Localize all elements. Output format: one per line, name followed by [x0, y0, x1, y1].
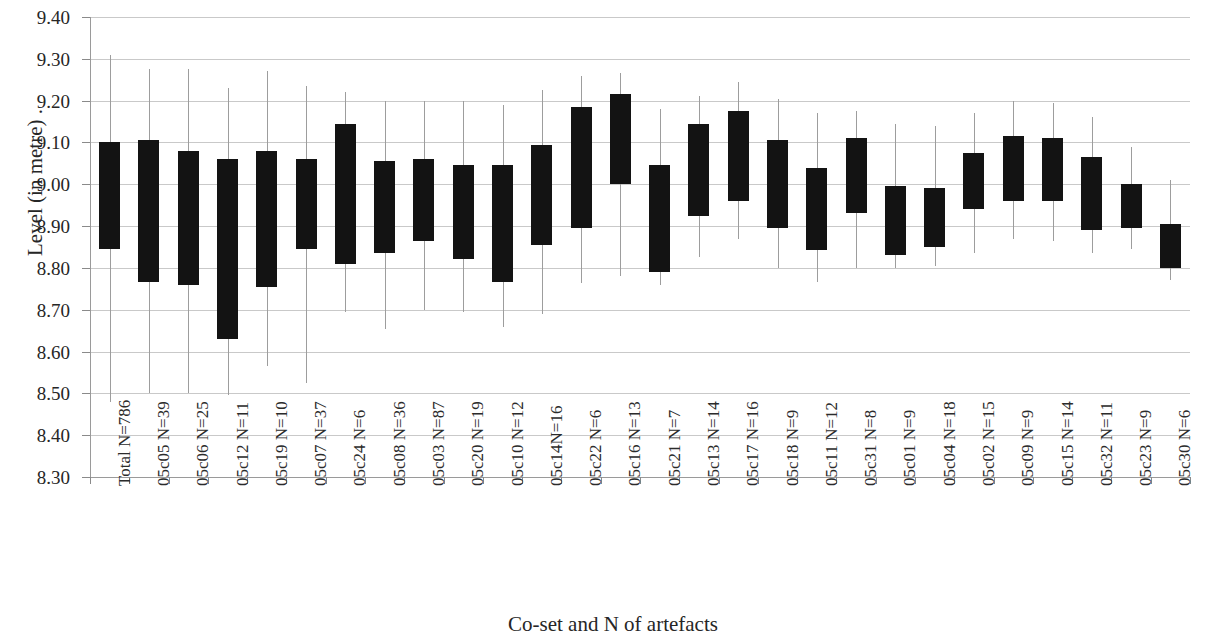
bar[interactable]	[335, 124, 356, 264]
bar[interactable]	[217, 159, 238, 339]
y-tick-label: 9.20	[12, 92, 70, 111]
x-tick-label: 05c31 N=8	[862, 410, 879, 486]
y-tick-mark	[82, 59, 90, 60]
bar[interactable]	[1042, 138, 1063, 201]
chart-canvas: Level (in metre) . 9.409.309.209.109.008…	[0, 0, 1226, 644]
bar[interactable]	[531, 145, 552, 245]
y-tick-label: 9.30	[12, 50, 70, 69]
y-tick-mark	[82, 435, 90, 436]
x-tick-label: 05c32 N=11	[1098, 402, 1115, 486]
y-tick-label: 8.90	[12, 217, 70, 236]
y-tick-mark	[82, 142, 90, 143]
y-tick-mark	[82, 352, 90, 353]
bar[interactable]	[767, 140, 788, 228]
y-tick-mark	[82, 184, 90, 185]
x-tick-label: 05c12 N=11	[234, 402, 251, 486]
bar[interactable]	[924, 188, 945, 247]
bar[interactable]	[963, 153, 984, 209]
gridline	[90, 268, 1190, 269]
bar[interactable]	[138, 140, 159, 282]
bar[interactable]	[1003, 136, 1024, 201]
bar[interactable]	[413, 159, 434, 241]
gridline	[90, 393, 1190, 394]
x-tick-label: 05c18 N=9	[784, 410, 801, 486]
bar[interactable]	[688, 124, 709, 216]
x-tick-label: 05c01 N=9	[901, 410, 918, 486]
x-tick-label: 05c03 N=87	[430, 401, 447, 486]
x-tick-label: 05c30 N=6	[1176, 410, 1193, 486]
bar[interactable]	[1081, 157, 1102, 230]
x-tick-label: 05c08 N=36	[391, 401, 408, 486]
gridline	[90, 226, 1190, 227]
bar[interactable]	[178, 151, 199, 285]
x-tick-label: 05c17 N=16	[744, 401, 761, 486]
bar[interactable]	[374, 161, 395, 253]
x-tick-label: 05c20 N=19	[469, 401, 486, 486]
y-tick-mark	[82, 226, 90, 227]
x-tick-label: 05c14N=16	[548, 406, 565, 486]
bar[interactable]	[1121, 184, 1142, 228]
y-axis-line	[90, 17, 91, 477]
bar[interactable]	[1160, 224, 1181, 268]
x-tick-label: 05c06 N=25	[194, 401, 211, 486]
x-tick-label: 05c05 N=39	[155, 401, 172, 486]
x-tick-label: 05c04 N=18	[941, 401, 958, 486]
gridline	[90, 59, 1190, 60]
y-tick-label: 8.60	[12, 343, 70, 362]
y-tick-label: 8.30	[12, 468, 70, 487]
gridline	[90, 101, 1190, 102]
x-tick-label: 05c07 N=37	[312, 401, 329, 486]
x-tick-label: 05c10 N=12	[509, 401, 526, 486]
x-tick-mark	[90, 477, 91, 484]
y-tick-label: 8.70	[12, 301, 70, 320]
bar[interactable]	[256, 151, 277, 287]
gridline	[90, 142, 1190, 143]
gridline	[90, 310, 1190, 311]
bar[interactable]	[296, 159, 317, 249]
x-tick-label: 05c23 N=9	[1137, 410, 1154, 486]
y-tick-label: 9.10	[12, 133, 70, 152]
x-tick-label: 05c22 N=6	[587, 410, 604, 486]
x-tick-label: 05c19 N=10	[273, 401, 290, 486]
x-tick-label: 05c09 N=9	[1019, 410, 1036, 486]
gridline	[90, 184, 1190, 185]
gridline	[90, 17, 1190, 18]
bar[interactable]	[846, 138, 867, 213]
y-tick-mark	[82, 17, 90, 18]
x-tick-label: 05c24 N=6	[351, 410, 368, 486]
bar[interactable]	[885, 186, 906, 255]
bar[interactable]	[571, 107, 592, 228]
y-tick-mark	[82, 268, 90, 269]
bar[interactable]	[728, 111, 749, 201]
y-tick-label: 8.50	[12, 384, 70, 403]
bar[interactable]	[806, 168, 827, 250]
y-tick-mark	[82, 393, 90, 394]
y-tick-mark	[82, 310, 90, 311]
gridline	[90, 352, 1190, 353]
bar[interactable]	[649, 165, 670, 272]
bar[interactable]	[99, 142, 120, 249]
x-tick-label: Total N=786	[116, 400, 133, 486]
y-tick-label: 9.40	[12, 8, 70, 27]
bar[interactable]	[453, 165, 474, 259]
x-tick-label: 05c13 N=14	[705, 401, 722, 486]
y-tick-label: 9.00	[12, 175, 70, 194]
x-tick-label: 05c15 N=14	[1059, 401, 1076, 486]
x-tick-label: 05c16 N=13	[626, 401, 643, 486]
x-tick-label: 05c02 N=15	[980, 401, 997, 486]
x-tick-label: 05c21 N=7	[666, 410, 683, 486]
y-tick-mark	[82, 101, 90, 102]
x-tick-label: 05c11 N=12	[823, 402, 840, 486]
bar[interactable]	[492, 165, 513, 282]
x-axis-title: Co-set and N of artefacts	[0, 612, 1226, 637]
y-tick-mark	[82, 477, 90, 478]
y-tick-label: 8.40	[12, 426, 70, 445]
y-tick-label: 8.80	[12, 259, 70, 278]
bar[interactable]	[610, 94, 631, 184]
